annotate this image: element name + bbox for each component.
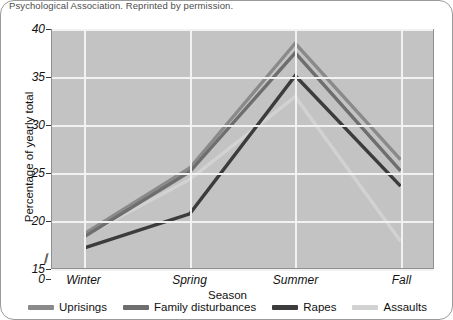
legend-item[interactable]: Family disturbances: [123, 301, 256, 313]
legend-label: Assaults: [383, 301, 426, 313]
legend-item[interactable]: Rapes: [272, 301, 336, 313]
grid-line-vertical: [401, 30, 403, 268]
legend-label: Rapes: [303, 301, 336, 313]
legend-swatch-icon: [272, 305, 298, 310]
grid-line-horizontal: [52, 29, 433, 31]
x-axis-tick-label: Fall: [356, 273, 446, 287]
grid-line-vertical: [84, 30, 86, 268]
chart-legend: UprisingsFamily disturbancesRapesAssault…: [1, 301, 453, 313]
legend-swatch-icon: [123, 305, 149, 310]
grid-line-vertical: [190, 30, 192, 268]
legend-swatch-icon: [28, 305, 54, 310]
plot-area: [51, 29, 434, 269]
x-axis-label: Season: [1, 289, 453, 301]
x-axis-tick-label: Summer: [250, 273, 340, 287]
grid-line-vertical: [295, 30, 297, 268]
legend-item[interactable]: Uprisings: [28, 301, 107, 313]
legend-label: Family disturbances: [154, 301, 256, 313]
grid-line-horizontal: [52, 269, 433, 271]
y-axis-tick-mark: [46, 269, 51, 270]
y-axis-tick-label: 40: [9, 22, 45, 36]
grid-line-horizontal: [52, 77, 433, 79]
legend-label: Uprisings: [59, 301, 107, 313]
figure-container: Psychological Association. Reprinted by …: [0, 0, 453, 320]
grid-line-horizontal: [52, 173, 433, 175]
legend-item[interactable]: Assaults: [352, 301, 426, 313]
series-lines: [52, 30, 433, 268]
x-axis-tick-label: Spring: [145, 273, 235, 287]
grid-line-horizontal: [52, 221, 433, 223]
legend-swatch-icon: [352, 305, 378, 310]
x-axis-tick-label: Winter: [39, 273, 129, 287]
grid-line-horizontal: [52, 125, 433, 127]
y-axis-label: Percentage of yearly total: [23, 67, 35, 247]
